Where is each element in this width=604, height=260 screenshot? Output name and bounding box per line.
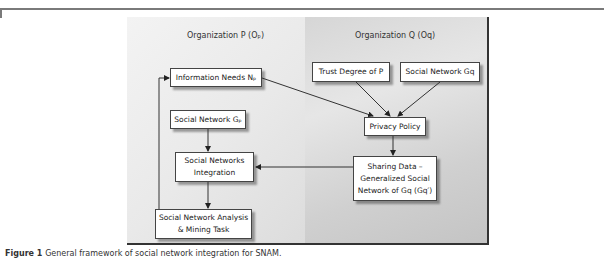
sharing-data-line3: Network of Gq (Gq′)	[358, 185, 432, 197]
privacy-policy-node: Privacy Policy	[364, 117, 426, 136]
sharing-data-node: Sharing Data – Generalized Social Networ…	[353, 156, 437, 201]
caption-label: Figure 1	[5, 249, 42, 258]
social-network-p-node: Social Network Gₚ	[170, 110, 246, 129]
snam-task-line2: & Mining Task	[178, 224, 230, 236]
social-networks-integration-node: Social Networks Integration	[175, 152, 254, 182]
trust-degree-node: Trust Degree of P	[312, 62, 390, 82]
top-rule	[0, 8, 604, 10]
social-network-p-label: Social Network Gₚ	[174, 114, 241, 126]
social-network-q-node: Social Network Gq	[400, 62, 480, 82]
organization-p-label: Organization P (Oₚ)	[187, 31, 264, 40]
sn-integration-line1: Social Networks	[185, 155, 245, 167]
top-rule-corner	[0, 8, 2, 18]
caption-text: General framework of social network inte…	[45, 249, 281, 258]
information-needs-node: Information Needs Nₚ	[170, 68, 262, 87]
sn-integration-line2: Integration	[194, 167, 235, 179]
figure-caption: Figure 1 General framework of social net…	[5, 249, 282, 258]
snam-task-node: Social Network Analysis & Mining Task	[155, 209, 252, 239]
sharing-data-line1: Sharing Data –	[367, 161, 422, 173]
social-network-q-label: Social Network Gq	[406, 66, 475, 78]
information-needs-label: Information Needs Nₚ	[176, 72, 257, 84]
sharing-data-line2: Generalized Social	[360, 173, 430, 185]
trust-degree-label: Trust Degree of P	[319, 66, 383, 78]
privacy-policy-label: Privacy Policy	[369, 121, 420, 133]
organization-q-label: Organization Q (Oq)	[355, 31, 435, 40]
snam-task-line1: Social Network Analysis	[159, 212, 248, 224]
